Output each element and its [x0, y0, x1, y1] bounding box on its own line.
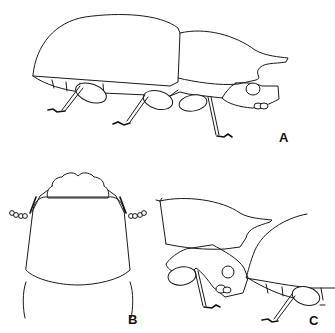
panel-c-drawing	[156, 198, 335, 322]
panel-label-c: C	[309, 314, 318, 327]
panel-b-drawing	[10, 173, 147, 318]
figure: A B C	[0, 0, 335, 333]
panel-a-drawing	[33, 15, 288, 137]
beetle-illustration	[0, 0, 335, 333]
panel-label-a: A	[279, 131, 288, 144]
panel-label-b: B	[128, 313, 137, 326]
